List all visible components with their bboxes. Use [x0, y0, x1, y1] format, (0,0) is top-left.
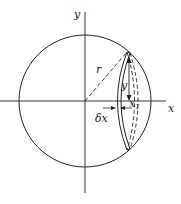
arrowhead-right-icon — [111, 106, 116, 110]
thickness-label: δx — [95, 112, 109, 125]
ordinate-label: y — [120, 79, 128, 92]
radius-line — [85, 52, 127, 101]
y-axis-label: y — [73, 8, 81, 21]
x-axis-label: x — [168, 102, 175, 115]
radius-label: r — [96, 63, 102, 76]
sphere-slice-diagram: y x r y x1 δx — [0, 0, 181, 204]
